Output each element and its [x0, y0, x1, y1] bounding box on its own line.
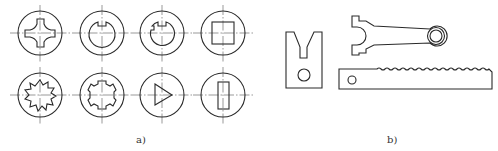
shape-single-keyway-hole	[72, 5, 132, 62]
panel-a-label: a)	[136, 134, 146, 145]
shape-triangle-hole	[132, 67, 192, 125]
shape-rectangular-slot	[193, 67, 253, 125]
shape-square-hole	[193, 5, 253, 62]
shape-double-notch-hole	[132, 5, 192, 62]
shape-serrated-spline-hole	[10, 67, 70, 125]
shape-gear-rack	[339, 68, 492, 89]
panel-b	[286, 16, 492, 89]
panel-a	[10, 5, 253, 125]
shape-v-block	[286, 32, 322, 88]
shape-cross-profile	[10, 5, 70, 62]
diagram-canvas	[0, 0, 498, 151]
panel-b-label: b)	[387, 134, 397, 145]
shape-connecting-rod	[352, 16, 447, 55]
shape-involute-spline-hole	[72, 67, 132, 125]
